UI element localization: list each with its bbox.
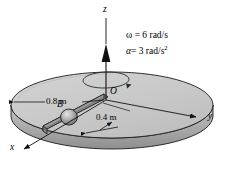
mechanics-figure: z y x O B ω = 6 rad/s α= 3 rad/s2 0.8 m …	[0, 0, 225, 169]
figure-canvas	[0, 0, 225, 169]
origin-label: O	[110, 86, 117, 96]
angular-velocity-label: ω = 6 rad/s	[126, 30, 168, 41]
angular-acceleration-label: α= 3 rad/s2	[126, 42, 168, 57]
angular-acceleration-exponent: 2	[164, 44, 167, 51]
z-axis-label: z	[103, 4, 107, 14]
ball-offset-dimension-label: 0.4 m	[96, 112, 117, 122]
angular-acceleration-value: = 3 rad/s	[131, 46, 164, 56]
y-axis-label: y	[208, 111, 212, 121]
x-axis-label: x	[10, 142, 14, 152]
radius-dimension-label: 0.8 m	[46, 96, 67, 106]
